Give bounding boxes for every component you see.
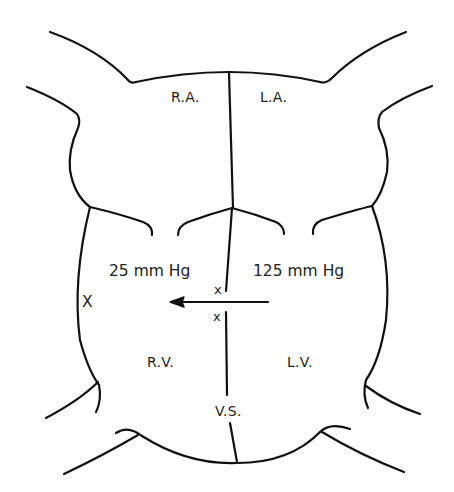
right-shoulder-curve <box>320 32 406 83</box>
rv-wall-marker: X <box>82 295 93 311</box>
right-ventricle-pressure: 25 mm Hg <box>109 264 190 280</box>
right-ventricle-label: R.V. <box>147 355 174 369</box>
ventricular-septum-label: V.S. <box>215 404 242 418</box>
left-ventricle-lower-flare <box>366 386 420 414</box>
left-bottom-flare <box>64 435 138 474</box>
left-atrium-outer-wall <box>372 86 432 206</box>
right-atrium-label: R.A. <box>171 90 200 104</box>
septum-lower-marker: x <box>213 310 221 323</box>
ventricular-septum-upper <box>226 208 232 291</box>
shunt-arrow-head <box>170 297 184 307</box>
tricuspid-valve-left-leaflet <box>178 208 232 235</box>
septum-upper-marker: x <box>214 283 222 296</box>
left-ventricle-label: L.V. <box>287 355 313 369</box>
ventricular-septum-apex <box>230 423 237 462</box>
left-shoulder-curve <box>50 32 136 83</box>
mitral-valve-left-leaflet <box>313 206 372 234</box>
atrial-septum-line <box>229 73 233 208</box>
left-ventricle-pressure: 125 mm Hg <box>253 264 344 280</box>
right-bottom-flare <box>322 432 404 472</box>
tricuspid-valve-right-leaflet <box>90 207 152 235</box>
right-atrium-outer-wall <box>27 87 90 207</box>
left-ventricle-outer-wall <box>364 206 387 408</box>
heart-diagram: R.A. L.A. 25 mm Hg 125 mm Hg x x X R.V. … <box>0 0 454 492</box>
mitral-valve-right-leaflet <box>232 208 284 234</box>
ventricular-septum-lower <box>226 312 227 395</box>
left-atrium-label: L.A. <box>260 90 287 104</box>
right-bottom-cusp <box>320 426 350 432</box>
apex-arc <box>142 432 320 463</box>
right-ventricle-lower-flare <box>46 382 98 418</box>
